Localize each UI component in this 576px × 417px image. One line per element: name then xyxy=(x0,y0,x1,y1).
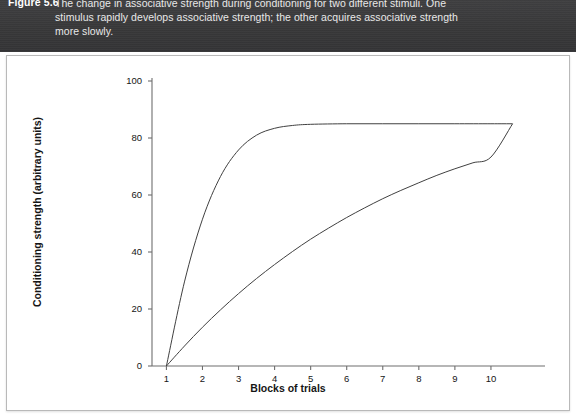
caption-line-2: stimulus rapidly develops associative st… xyxy=(55,10,571,24)
y-tick-label: 80 xyxy=(116,132,142,143)
x-tick-label: 1 xyxy=(156,373,176,384)
x-tick-label: 3 xyxy=(229,373,249,384)
x-tick-label: 9 xyxy=(445,373,465,384)
x-tick-label: 2 xyxy=(192,373,212,384)
series-line-rapid-acquisition-stimulus xyxy=(166,124,512,366)
line-chart-svg xyxy=(7,56,569,410)
y-tick-label: 60 xyxy=(116,189,142,200)
caption-line-1: The change in associative strength durin… xyxy=(55,0,571,10)
x-tick-label: 6 xyxy=(337,373,357,384)
y-tick-label: 0 xyxy=(116,360,142,371)
x-tick-label: 8 xyxy=(409,373,429,384)
figure-container: Figure 5.6 The change in associative str… xyxy=(0,0,576,417)
y-tick-label: 20 xyxy=(116,303,142,314)
caption-line-3: more slowly. xyxy=(55,24,571,38)
figure-caption-text: The change in associative strength durin… xyxy=(55,0,571,38)
figure-caption-header: Figure 5.6 The change in associative str… xyxy=(0,0,576,52)
series-line-slow-acquisition-stimulus xyxy=(166,124,512,366)
plot-panel: Conditioning strength (arbitrary units) … xyxy=(6,55,570,411)
x-tick-label: 10 xyxy=(481,373,501,384)
x-tick-label: 4 xyxy=(265,373,285,384)
y-axis-title: Conditioning strength (arbitrary units) xyxy=(31,112,43,312)
chart-area: Conditioning strength (arbitrary units) … xyxy=(7,56,569,410)
x-tick-label: 5 xyxy=(301,373,321,384)
y-tick-label: 100 xyxy=(116,75,142,86)
figure-number-label: Figure 5.6 xyxy=(8,0,59,8)
y-tick-label: 40 xyxy=(116,246,142,257)
x-tick-label: 7 xyxy=(373,373,393,384)
